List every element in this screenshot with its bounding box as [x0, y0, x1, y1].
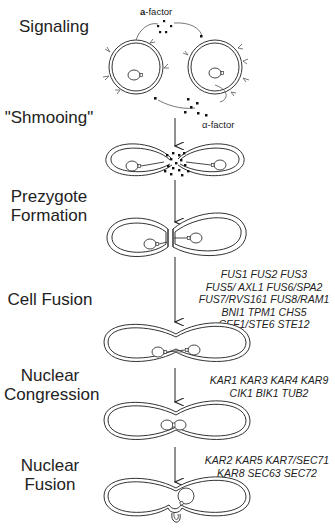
cell-alpha	[183, 40, 249, 96]
cell-a	[103, 39, 169, 94]
shmoo-cells	[106, 144, 244, 177]
alpha-factor-particles	[154, 97, 208, 117]
diagram-graphics	[0, 0, 335, 532]
prezygote	[107, 213, 246, 257]
congressed-zygote	[104, 401, 250, 440]
fused-zygote	[104, 323, 250, 362]
yeast-mating-diagram: Signaling "Shmooing" Prezygote Formation…	[0, 0, 335, 532]
diploid-zygote	[104, 477, 250, 522]
